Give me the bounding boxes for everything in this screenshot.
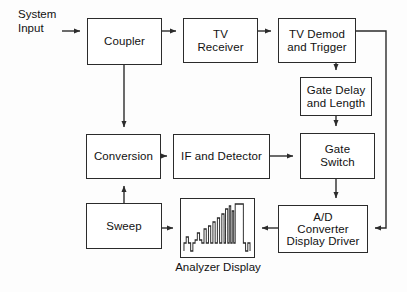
block-tv-receiver[interactable]: TV Receiver xyxy=(183,18,258,63)
block-gate-switch[interactable]: Gate Switch xyxy=(300,133,375,179)
block-sweep[interactable]: Sweep xyxy=(86,203,162,249)
block-tv-demod-and-trigger[interactable]: TV Demod and Trigger xyxy=(278,18,356,63)
analyzer-display-caption: Analyzer Display xyxy=(168,261,268,274)
block-ad-converter-display-driver[interactable]: A/D Converter Display Driver xyxy=(278,205,368,253)
analyzer-display-screen[interactable] xyxy=(180,198,255,258)
spectrum-waveform xyxy=(181,199,253,256)
block-conversion[interactable]: Conversion xyxy=(86,134,161,179)
block-diagram-canvas: System Input Coupler TV Receiver TV Demo… xyxy=(0,0,407,292)
block-coupler[interactable]: Coupler xyxy=(87,18,162,65)
system-input-label: System Input xyxy=(18,8,80,35)
waveform-trace xyxy=(184,204,250,251)
wire-tv-demod-to-ad-converter-feedback xyxy=(356,31,386,228)
block-if-and-detector[interactable]: IF and Detector xyxy=(173,134,270,179)
block-gate-delay-and-length[interactable]: Gate Delay and Length xyxy=(300,77,372,116)
